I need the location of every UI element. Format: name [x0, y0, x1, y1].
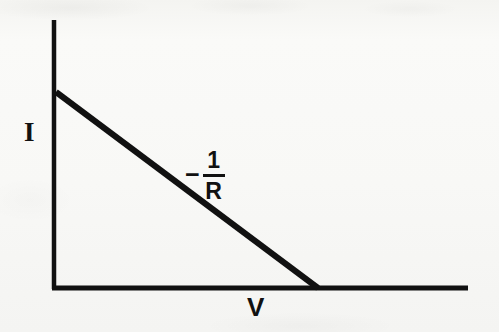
slope-annotation: − 1 R: [185, 148, 225, 203]
slope-fraction: 1 R: [203, 148, 225, 203]
plot-canvas: [0, 0, 499, 332]
slope-fraction-numerator: 1: [207, 148, 220, 173]
graph-figure: I V − 1 R: [0, 0, 499, 332]
slope-fraction-denominator: R: [205, 178, 222, 203]
slope-minus-sign: −: [185, 162, 200, 187]
slope-fraction-bar: [203, 174, 225, 177]
x-axis-label: V: [247, 294, 264, 320]
y-axis-label: I: [24, 119, 35, 146]
